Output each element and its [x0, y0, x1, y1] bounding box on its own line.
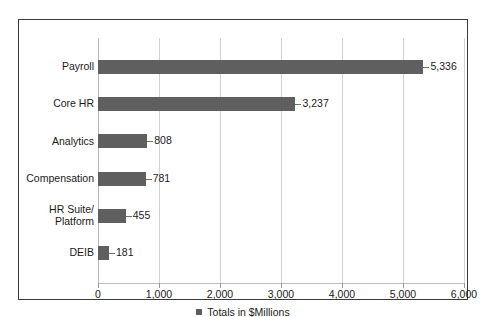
bar[interactable]: [98, 134, 147, 148]
value-leader-line: [423, 67, 429, 68]
bar-row[interactable]: 455: [98, 209, 464, 223]
x-tick-label: 6,000: [451, 288, 477, 300]
bar[interactable]: [98, 60, 423, 74]
chart-frame: 5,3363,237808781455181 PayrollCore HRAna…: [18, 19, 468, 300]
bar-value-label: 781: [153, 171, 171, 186]
bar-row[interactable]: 808: [98, 134, 464, 148]
category-label: Payroll: [20, 61, 94, 73]
bar-row[interactable]: 781: [98, 172, 464, 186]
bar-row[interactable]: 181: [98, 246, 464, 260]
x-tick-label: 2,000: [207, 288, 233, 300]
category-label: Compensation: [20, 173, 94, 185]
category-label: HR Suite/Platform: [20, 204, 94, 227]
bar-value-label: 808: [154, 133, 172, 148]
category-label-line: Core HR: [20, 98, 94, 110]
x-tick-label: 5,000: [390, 288, 416, 300]
bar[interactable]: [98, 209, 126, 223]
category-label-line: DEIB: [20, 247, 94, 259]
value-leader-line: [146, 179, 152, 180]
bar[interactable]: [98, 172, 146, 186]
category-label: Core HR: [20, 98, 94, 110]
chart-legend: Totals in $Millions: [19, 306, 467, 317]
plot-area: 5,3363,237808781455181: [98, 38, 464, 283]
category-label-line: Analytics: [20, 136, 94, 148]
category-label-line: Payroll: [20, 61, 94, 73]
bar-row[interactable]: 3,237: [98, 97, 464, 111]
value-leader-line: [109, 253, 115, 254]
x-tick-label: 1,000: [146, 288, 172, 300]
bar-row[interactable]: 5,336: [98, 60, 464, 74]
gridline-6000: [464, 38, 465, 283]
value-leader-line: [126, 216, 132, 217]
legend-label: Totals in $Millions: [207, 306, 289, 317]
x-tick-label: 0: [95, 288, 101, 300]
x-tick-label: 3,000: [268, 288, 294, 300]
category-label: Analytics: [20, 136, 94, 148]
value-leader-line: [295, 104, 301, 105]
bar[interactable]: [98, 246, 109, 260]
bar[interactable]: [98, 97, 295, 111]
bar-value-label: 3,237: [302, 96, 328, 111]
category-label-line: Compensation: [20, 173, 94, 185]
category-label-line: Platform: [20, 216, 94, 228]
category-axis-labels: PayrollCore HRAnalyticsCompensationHR Su…: [19, 38, 94, 283]
value-leader-line: [147, 141, 153, 142]
bar-value-label: 181: [116, 245, 134, 260]
x-tick-label: 4,000: [329, 288, 355, 300]
legend-swatch-icon: [196, 309, 202, 315]
bar-value-label: 455: [133, 208, 151, 223]
bar-value-label: 5,336: [430, 59, 456, 74]
category-label: DEIB: [20, 247, 94, 259]
